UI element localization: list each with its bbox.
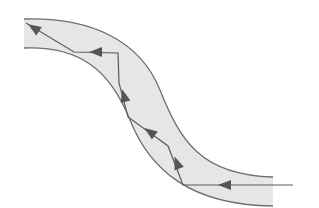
fiber-core [24,19,273,206]
optical-fiber-diagram [0,0,319,208]
